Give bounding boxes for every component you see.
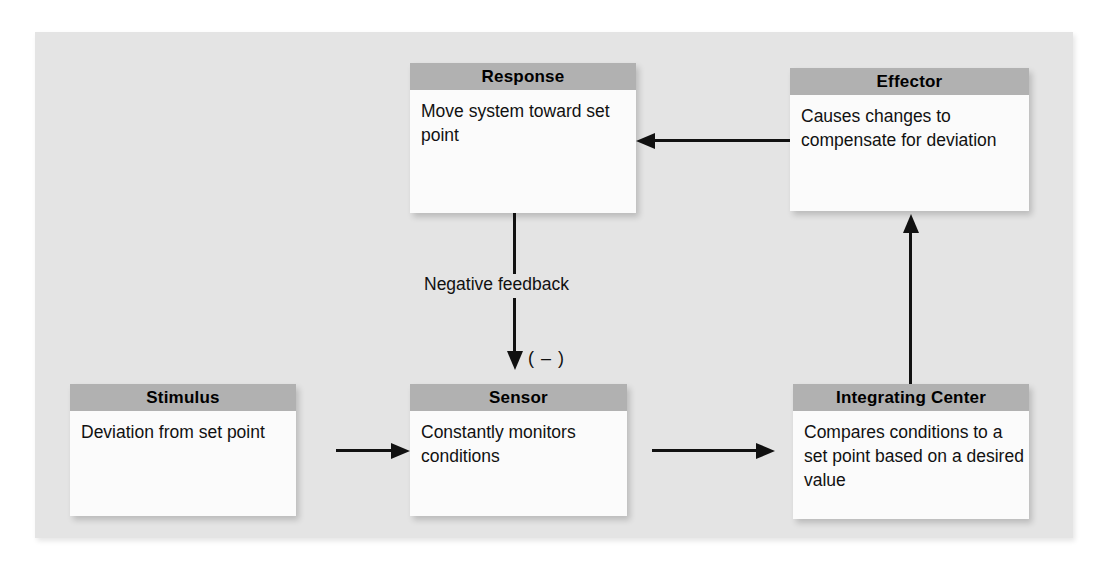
diagram-panel: Response Move system toward set point Ef…	[35, 32, 1073, 538]
arrow-stimulus-to-sensor-line	[336, 449, 391, 452]
arrow-integrating-center-to-effector-head	[903, 214, 919, 233]
node-sensor-body: Constantly monitors conditions	[410, 411, 627, 516]
arrow-sensor-to-integrating-center-line	[652, 449, 756, 452]
arrow-sensor-to-integrating-center-head	[756, 443, 775, 459]
node-effector-body: Causes changes to compensate for deviati…	[790, 95, 1029, 211]
node-sensor-header: Sensor	[410, 384, 627, 411]
arrow-response-to-sensor-line-upper	[513, 213, 516, 274]
arrow-effector-to-response-line	[655, 139, 790, 142]
node-sensor[interactable]: Sensor Constantly monitors conditions	[410, 384, 627, 516]
diagram-canvas: Response Move system toward set point Ef…	[0, 0, 1108, 571]
arrow-integrating-center-to-effector-line	[909, 233, 912, 384]
node-integrating-center[interactable]: Integrating Center Compares conditions t…	[793, 384, 1029, 519]
arrow-stimulus-to-sensor-head	[391, 443, 410, 459]
node-effector[interactable]: Effector Causes changes to compensate fo…	[790, 68, 1029, 211]
arrow-effector-to-response-head	[636, 133, 655, 149]
node-response-header: Response	[410, 63, 636, 90]
label-minus-sign: ( – )	[528, 348, 565, 369]
node-integrating-center-body: Compares conditions to a set point based…	[793, 411, 1029, 519]
node-stimulus-body: Deviation from set point	[70, 411, 296, 516]
arrow-response-to-sensor-line-lower	[513, 298, 516, 351]
node-stimulus-header: Stimulus	[70, 384, 296, 411]
arrow-response-to-sensor-head	[507, 351, 523, 370]
node-stimulus[interactable]: Stimulus Deviation from set point	[70, 384, 296, 516]
node-response-body: Move system toward set point	[410, 90, 636, 213]
node-effector-header: Effector	[790, 68, 1029, 95]
node-response[interactable]: Response Move system toward set point	[410, 63, 636, 213]
label-negative-feedback: Negative feedback	[424, 274, 569, 295]
node-integrating-center-header: Integrating Center	[793, 384, 1029, 411]
